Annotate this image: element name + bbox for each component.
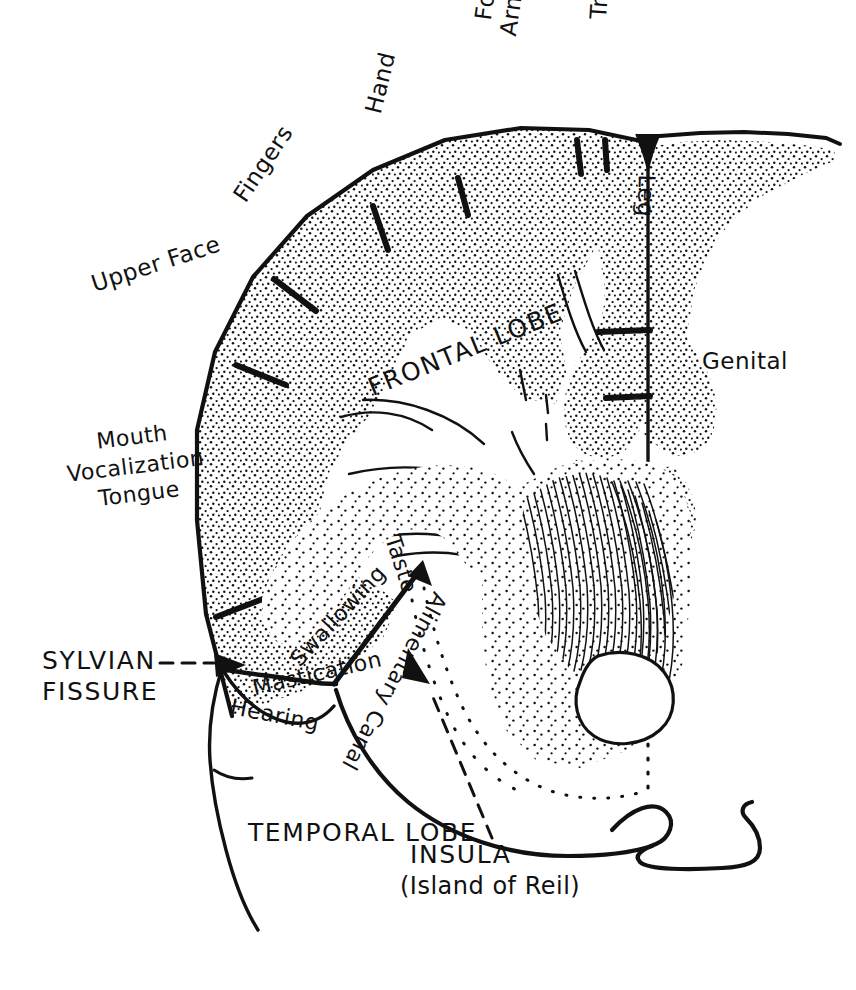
label-trunk: Trunk bbox=[585, 0, 617, 20]
label-genital: Genital bbox=[702, 348, 788, 375]
tick-genital-lower bbox=[606, 396, 650, 398]
label-island-of-reil: (Island of Reil) bbox=[400, 872, 580, 900]
label-leg: Leg bbox=[631, 174, 660, 218]
tick-arm-forearm bbox=[577, 140, 581, 174]
figure-canvas: Fingers Hand Arm Forearm Trunk Leg Genit… bbox=[0, 0, 856, 990]
label-sylvian-fissure: SYLVIAN FISSURE bbox=[42, 645, 158, 708]
tick-leg-genital bbox=[598, 330, 650, 332]
temporal-notch bbox=[214, 770, 252, 779]
tick-forearm-trunk bbox=[605, 140, 607, 170]
putamen-window bbox=[576, 653, 673, 744]
brainstem-outline bbox=[612, 802, 760, 869]
label-insula: INSULA bbox=[410, 840, 511, 870]
label-mouth-vocalization-tongue: Mouth Vocalization Tongue bbox=[62, 415, 209, 517]
